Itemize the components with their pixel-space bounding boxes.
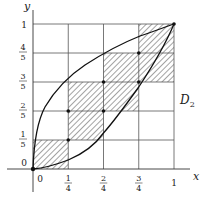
y-tick-2-5: 2 5 <box>19 101 27 120</box>
region-diagram: y x D2 1 4 5 3 5 2 5 1 5 0 0 <box>0 0 203 198</box>
point <box>102 80 106 84</box>
y-axis-label: y <box>23 0 31 13</box>
svg-text:4: 4 <box>66 184 71 193</box>
shaded-cell <box>68 111 103 140</box>
svg-text:3: 3 <box>20 72 25 81</box>
point <box>172 22 176 26</box>
point <box>31 167 35 171</box>
svg-text:1: 1 <box>20 130 25 139</box>
y-tick-3-5: 3 5 <box>19 72 27 91</box>
svg-text:4: 4 <box>101 184 106 193</box>
point <box>137 51 141 55</box>
svg-text:2: 2 <box>101 174 106 183</box>
y-tick-1-5: 1 5 <box>19 130 27 149</box>
x-tick-0: 0 <box>37 174 43 184</box>
x-axis-label: x <box>193 170 200 183</box>
shaded-cell <box>139 53 174 82</box>
svg-text:3: 3 <box>136 174 141 183</box>
y-tick-0: 0 <box>21 158 27 168</box>
shaded-cell <box>104 82 139 111</box>
svg-text:5: 5 <box>20 140 25 149</box>
svg-text:1: 1 <box>66 174 71 183</box>
y-tick-4-5: 4 5 <box>19 43 27 62</box>
x-tick-labels: 0 1 4 2 4 3 4 1 <box>37 174 177 193</box>
point <box>137 80 141 84</box>
svg-text:5: 5 <box>20 53 25 62</box>
x-tick-1: 1 <box>171 178 177 188</box>
shaded-cell <box>104 53 139 82</box>
svg-text:5: 5 <box>20 82 25 91</box>
shaded-cell <box>68 82 103 111</box>
region-label: D2 <box>179 93 195 109</box>
svg-text:5: 5 <box>20 111 25 120</box>
svg-text:2: 2 <box>20 101 25 110</box>
x-tick-2-4: 2 4 <box>100 174 108 193</box>
shaded-cell <box>33 140 68 169</box>
y-tick-labels: 1 4 5 3 5 2 5 1 5 0 <box>19 20 27 168</box>
shaded-cell <box>139 24 174 53</box>
svg-text:4: 4 <box>136 184 141 193</box>
svg-text:4: 4 <box>20 43 25 52</box>
x-tick-3-4: 3 4 <box>135 174 143 193</box>
x-tick-1-4: 1 4 <box>65 174 73 193</box>
point <box>66 109 70 113</box>
point <box>102 109 106 113</box>
point <box>66 138 70 142</box>
y-tick-1: 1 <box>21 20 27 30</box>
